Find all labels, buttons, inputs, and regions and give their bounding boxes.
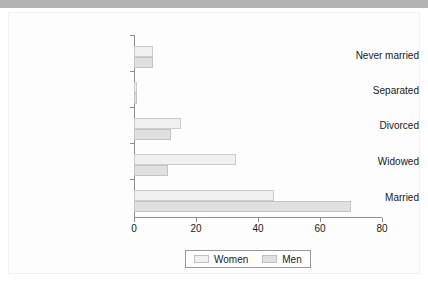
bar-separated-women	[134, 82, 137, 93]
top-banner	[0, 0, 428, 8]
bar-never-married-men	[134, 57, 153, 68]
x-tick-20	[196, 218, 197, 222]
bar-separated-men	[134, 93, 137, 104]
bar-married-men	[134, 201, 351, 212]
legend-swatch-men-icon	[262, 255, 277, 263]
x-tick-label-80: 80	[376, 223, 387, 235]
x-tick-label-0: 0	[131, 223, 137, 235]
y-tick-4	[130, 179, 134, 180]
x-tick-label-60: 60	[314, 223, 325, 235]
legend-label-women: Women	[214, 254, 248, 265]
category-label-divorced: Divorced	[307, 120, 419, 132]
bar-widowed-men	[134, 165, 168, 176]
x-tick-80	[382, 218, 383, 222]
x-tick-0	[134, 218, 135, 222]
category-label-separated: Separated	[307, 85, 419, 97]
chart-legend: Women Men	[185, 250, 311, 268]
bar-never-married-women	[134, 46, 153, 57]
category-label-never-married: Never married	[307, 50, 419, 62]
bar-widowed-women	[134, 154, 236, 165]
figure-panel: 0 20 40 60 80 Never married Separated Di…	[8, 12, 420, 274]
bar-married-women	[134, 190, 274, 201]
chart-screenshot: 0 20 40 60 80 Never married Separated Di…	[0, 0, 428, 281]
y-tick-2	[130, 107, 134, 108]
y-tick-1	[130, 71, 134, 72]
bar-divorced-men	[134, 129, 171, 140]
x-tick-40	[258, 218, 259, 222]
y-tick-3	[130, 143, 134, 144]
x-tick-label-40: 40	[252, 223, 263, 235]
legend-label-men: Men	[282, 254, 301, 265]
legend-entry-men[interactable]: Men	[262, 254, 301, 265]
y-tick-top	[130, 35, 134, 36]
legend-entry-women[interactable]: Women	[194, 254, 248, 265]
bar-divorced-women	[134, 118, 181, 129]
legend-swatch-women-icon	[194, 255, 209, 263]
x-tick-label-20: 20	[190, 223, 201, 235]
category-label-widowed: Widowed	[307, 156, 419, 168]
x-tick-60	[320, 218, 321, 222]
